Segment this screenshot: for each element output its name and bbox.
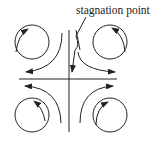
vortex-top-left	[15, 25, 49, 59]
flow-diagram	[0, 0, 166, 141]
vortex-top-right	[93, 25, 127, 59]
vortex-bottom-right	[93, 98, 127, 132]
